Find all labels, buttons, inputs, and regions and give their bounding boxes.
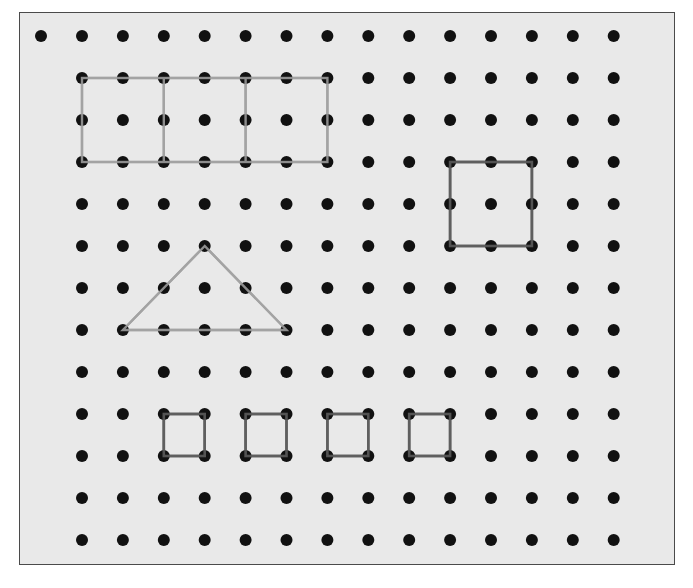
grid-dot (117, 450, 129, 462)
grid-dot (608, 240, 620, 252)
grid-dot (158, 534, 170, 546)
grid-dot (526, 450, 538, 462)
grid-dot (608, 30, 620, 42)
grid-dot (444, 324, 456, 336)
grid-dot (485, 492, 497, 504)
grid-dot (485, 408, 497, 420)
grid-dot (485, 282, 497, 294)
grid-dot (403, 240, 415, 252)
grid-dot (321, 492, 333, 504)
grid-dot (199, 114, 211, 126)
grid-dot (117, 240, 129, 252)
grid-dot (281, 366, 293, 378)
grid-dot (444, 282, 456, 294)
small-square-4 (409, 414, 450, 456)
grid-dot (403, 72, 415, 84)
grid-dot (158, 366, 170, 378)
grid-dot (444, 534, 456, 546)
grid-dot (608, 156, 620, 168)
small-square-2 (246, 414, 287, 456)
grid-dot (362, 282, 374, 294)
grid-dot (321, 324, 333, 336)
grid-dot (444, 366, 456, 378)
grid-dot (403, 30, 415, 42)
grid-dot (403, 534, 415, 546)
grid-dot (76, 198, 88, 210)
grid-dot (281, 30, 293, 42)
grid-dot (526, 282, 538, 294)
grid-dot (362, 198, 374, 210)
grid-dot (567, 534, 579, 546)
grid-dot (526, 30, 538, 42)
small-square-4-outline (409, 414, 450, 456)
small-square-3 (327, 414, 368, 456)
grid-dot (117, 408, 129, 420)
grid-dot (526, 72, 538, 84)
geoboard-diagram (0, 0, 693, 588)
grid-dot (444, 114, 456, 126)
grid-dot (76, 408, 88, 420)
small-square-1-outline (164, 414, 205, 456)
grid-dot (567, 240, 579, 252)
grid-dot (608, 450, 620, 462)
grid-dot (199, 30, 211, 42)
grid-dot (76, 450, 88, 462)
grid-dot (485, 450, 497, 462)
grid-dot (608, 492, 620, 504)
grid-dot (362, 72, 374, 84)
grid-dot (567, 156, 579, 168)
grid-dot (567, 114, 579, 126)
grid-dot (281, 240, 293, 252)
grid-dot (608, 114, 620, 126)
small-square-1-outline (164, 414, 205, 456)
grid-dot (526, 114, 538, 126)
grid-dot (362, 240, 374, 252)
grid-dot (117, 534, 129, 546)
grid-dot (403, 366, 415, 378)
grid-dot (199, 534, 211, 546)
grid-dot (76, 240, 88, 252)
grid-dot (117, 114, 129, 126)
grid-dot (321, 240, 333, 252)
grid-dot (362, 30, 374, 42)
grid-dot (321, 282, 333, 294)
grid-dot (608, 324, 620, 336)
grid-dot (567, 72, 579, 84)
grid-dot (403, 282, 415, 294)
grid-dot (158, 492, 170, 504)
grid-dot (35, 30, 47, 42)
grid-dot (403, 324, 415, 336)
grid-dot (321, 30, 333, 42)
grid-dot (158, 198, 170, 210)
small-square-2 (246, 414, 287, 456)
small-square-3-outline (327, 414, 368, 456)
grid-dot (199, 366, 211, 378)
grid-dot (117, 492, 129, 504)
grid-dot (117, 282, 129, 294)
grid-dot (240, 198, 252, 210)
grid-dot (240, 30, 252, 42)
grid-dot (281, 114, 293, 126)
grid-dot (444, 72, 456, 84)
grid-dot (199, 282, 211, 294)
grid-dot (240, 492, 252, 504)
small-square-4 (409, 414, 450, 456)
grid-dot (526, 534, 538, 546)
small-square-4-outline (409, 414, 450, 456)
grid-dot (240, 534, 252, 546)
grid-dot (444, 30, 456, 42)
small-square-2-outline (246, 414, 287, 456)
grid-dot (362, 492, 374, 504)
grid-dot (485, 114, 497, 126)
grid-dot (526, 492, 538, 504)
grid-dot (240, 240, 252, 252)
grid-dot (608, 408, 620, 420)
grid-dot (321, 534, 333, 546)
grid-dot (526, 366, 538, 378)
grid-dot (362, 156, 374, 168)
grid-dot (485, 30, 497, 42)
grid-dot (567, 408, 579, 420)
grid-dot (76, 282, 88, 294)
small-square-1 (164, 414, 205, 456)
grid-dot (567, 492, 579, 504)
